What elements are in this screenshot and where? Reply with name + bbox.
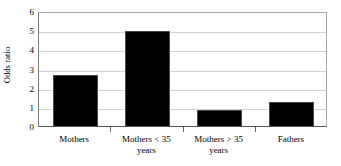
x-axis-tick [255,127,256,132]
x-axis-tick-label: Mothers > 35years [183,134,255,156]
y-axis-tick-label: 0 [16,123,34,132]
bar [125,31,170,126]
x-axis-tick-label: Fathers [255,134,327,145]
x-axis-tick-label-line: Mothers < 35 [110,134,182,145]
x-axis-tick-labels: MothersMothers < 35yearsMothers > 35year… [38,134,327,164]
bars-layer [39,13,326,126]
y-axis-tick-label: 4 [16,46,34,55]
x-axis-tick-label-line: years [110,145,182,156]
x-axis-tick-label: Mothers < 35years [110,134,182,156]
y-axis-tick-label: 5 [16,27,34,36]
x-axis-tick-label: Mothers [38,134,110,145]
y-axis-tick-label: 2 [16,84,34,93]
bar-chart: Odds ratio 0123456 MothersMothers < 35ye… [0,0,341,166]
x-axis-tick-label-line: years [183,145,255,156]
x-axis-tick-label-line: Mothers [38,134,110,145]
y-axis-tick-label: 3 [16,65,34,74]
x-axis-ticks [38,127,327,132]
y-axis-tick-label: 6 [16,8,34,17]
y-axis-title-text: Odds ratio [2,47,12,84]
y-axis-tick-labels: 0123456 [16,12,34,127]
y-axis-tick-label: 1 [16,103,34,112]
plot-area [38,12,327,127]
bar [53,75,98,126]
x-axis-tick [110,127,111,132]
x-axis-tick-label-line: Mothers > 35 [183,134,255,145]
y-axis-title: Odds ratio [0,0,14,130]
x-axis-tick [183,127,184,132]
bar [269,102,314,126]
x-axis-tick-label-line: Fathers [255,134,327,145]
bar [197,110,242,126]
